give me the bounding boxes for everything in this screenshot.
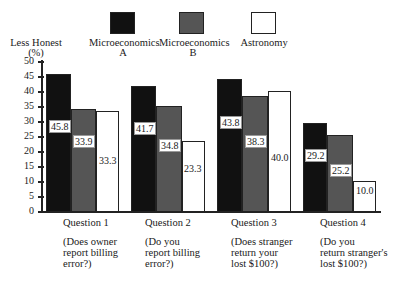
bar-q4-micro-a bbox=[303, 123, 327, 212]
category-desc-q1: (Does owner report billing error?) bbox=[63, 236, 118, 269]
category-label-q2: Question 2 bbox=[145, 217, 191, 228]
value-label: 33.9 bbox=[73, 135, 95, 148]
category-desc-q3: (Does stranger return your lost $100?) bbox=[231, 236, 293, 269]
bar-q3-micro-b bbox=[242, 96, 268, 212]
bar-q1-micro-b bbox=[71, 109, 96, 212]
value-label: 33.3 bbox=[98, 155, 118, 166]
value-label: 40.0 bbox=[270, 152, 290, 163]
category-label-q4: Question 4 bbox=[320, 217, 366, 228]
value-label: 34.8 bbox=[159, 139, 181, 152]
value-label: 29.2 bbox=[305, 149, 327, 162]
legend-swatch-micro-b bbox=[179, 12, 204, 34]
legend-label-micro-a: Microeconomics A bbox=[89, 38, 157, 58]
category-label-q1: Question 1 bbox=[63, 217, 109, 228]
legend-label-line: B bbox=[159, 48, 227, 58]
value-label: 38.3 bbox=[245, 135, 267, 148]
category-desc-q4: (Do you return stranger's lost $100?) bbox=[320, 236, 388, 269]
bar-q2-micro-b bbox=[156, 106, 182, 212]
category-desc-q2: (Do you report billing error?) bbox=[145, 236, 200, 269]
value-label: 23.3 bbox=[183, 163, 203, 174]
value-label: 45.8 bbox=[49, 120, 71, 133]
bar-q2-micro-a bbox=[131, 86, 156, 212]
bar-q2-astronomy bbox=[182, 141, 205, 212]
y-axis-label: Less Honest (%) bbox=[4, 38, 68, 58]
legend-label-line: Astronomy bbox=[234, 38, 294, 48]
value-label: 43.8 bbox=[220, 116, 242, 129]
legend-label-astronomy: Astronomy bbox=[234, 38, 294, 48]
bar-q3-micro-a bbox=[217, 79, 242, 212]
value-label: 41.7 bbox=[134, 122, 156, 135]
value-label: 25.2 bbox=[330, 164, 352, 177]
y-axis-label-line: (%) bbox=[4, 48, 68, 58]
legend-label-micro-b: Microeconomics B bbox=[159, 38, 227, 58]
value-label: 10.0 bbox=[355, 185, 375, 196]
legend-swatch-astronomy bbox=[251, 12, 276, 34]
bar-q1-micro-a bbox=[46, 74, 71, 212]
legend-label-line: A bbox=[89, 48, 157, 58]
category-label-q3: Question 3 bbox=[231, 217, 277, 228]
legend-swatch-micro-a bbox=[110, 12, 135, 34]
